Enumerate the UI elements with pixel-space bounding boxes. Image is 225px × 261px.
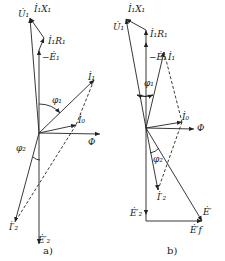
b-label-phi1: φ₁ xyxy=(144,79,154,88)
phasor-lines xyxy=(0,0,225,261)
b-label-phi2: φ₂ xyxy=(153,155,163,164)
b-label-Ep: Ė′ xyxy=(203,208,212,217)
a-phi1-arc xyxy=(39,104,60,113)
a-I1R1-vector xyxy=(39,38,44,50)
a-label-I1X1: İ₁X₁ xyxy=(34,5,51,14)
a-label-I1R1: İ₁R₁ xyxy=(48,37,66,46)
b-U1-vector xyxy=(126,19,146,128)
b-label-I0: İ₀ xyxy=(182,113,189,122)
a-label-phi1: φ₁ xyxy=(52,96,62,105)
a-label-I1: İ₁ xyxy=(88,73,95,82)
b-I1X1-vector xyxy=(126,19,146,30)
phasor-diagram-figure: U̇₁ İ₁X₁ İ₁R₁ −Ė₁ İ₁ φ₁ İ₀ Φ φ₂ İ′₂ Ė′₂ … xyxy=(0,0,225,261)
b-caption: b) xyxy=(167,246,177,256)
b-label-I2p: İ′₂ xyxy=(157,193,166,202)
a-I0-vector xyxy=(39,125,76,133)
a-label-I2p: İ′₂ xyxy=(9,223,18,232)
a-U1-vector xyxy=(30,18,39,133)
b-label-I1: İ₁ xyxy=(168,53,175,62)
b-I1-vector xyxy=(146,52,164,128)
a-I1X1-vector xyxy=(30,18,44,38)
b-label-negE1: −Ė₁ xyxy=(149,53,167,62)
a-label-phi2: φ₂ xyxy=(16,144,26,153)
b-label-I1X1: İ₁X₁ xyxy=(128,5,145,14)
a-Phi-vector xyxy=(39,133,100,134)
a-caption: a) xyxy=(43,246,53,256)
a-label-I0: İ₀ xyxy=(78,116,85,125)
a-dashed-2 xyxy=(15,125,76,222)
b-I0-vector xyxy=(146,122,182,128)
b-label-U1: U̇₁ xyxy=(113,23,124,32)
b-label-I1R1: İ₁R₁ xyxy=(150,30,168,39)
a-label-Phi: Φ xyxy=(88,138,95,147)
a-label-negE1: −Ė₁ xyxy=(42,53,60,62)
b-label-E2p: Ė′₂ xyxy=(130,209,142,218)
b-Phi-vector xyxy=(146,128,194,129)
b-dashed-1 xyxy=(164,52,182,122)
a-label-U1: U̇₁ xyxy=(18,10,29,19)
a-label-E2p: Ė′₂ xyxy=(38,236,50,245)
b-label-Efp: Ė′f xyxy=(190,226,202,235)
b-Ep-vector xyxy=(146,128,202,221)
b-label-Phi: Φ xyxy=(197,124,204,133)
a-I1-vector xyxy=(39,80,94,133)
b-phi2-arc xyxy=(150,148,159,153)
